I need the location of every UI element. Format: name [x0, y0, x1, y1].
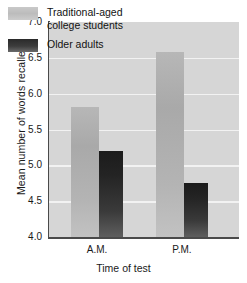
y-axis-tick-label: 5.0 [16, 159, 42, 171]
gridline [49, 94, 239, 96]
y-axis-tick-label: 5.5 [16, 124, 42, 136]
x-axis-tick-label: P.M. [147, 243, 217, 256]
y-axis-tick-label: 6.0 [16, 88, 42, 100]
legend-swatch-traditional [8, 7, 38, 20]
bar-chart-figure: Mean number of words recalled 4.04.55.05… [0, 0, 247, 283]
bar [71, 107, 99, 237]
legend-label-older-adults: Older adults [47, 38, 104, 51]
y-axis-tick-label: 4.0 [16, 231, 42, 243]
legend-item-older-adults: Older adults [8, 38, 180, 52]
bar [99, 151, 123, 237]
x-axis-title: Time of test [0, 262, 247, 275]
legend-item-traditional: Traditional-aged college students [8, 6, 180, 31]
chart-legend: Traditional-aged college students Older … [8, 6, 180, 59]
bar [156, 52, 184, 237]
legend-label-traditional: Traditional-aged college students [47, 6, 123, 31]
legend-swatch-older-adults [8, 39, 38, 52]
y-axis-tick-label: 4.5 [16, 195, 42, 207]
x-axis-tick-label: A.M. [62, 243, 132, 256]
x-axis-line [48, 237, 239, 239]
bar [184, 183, 208, 237]
